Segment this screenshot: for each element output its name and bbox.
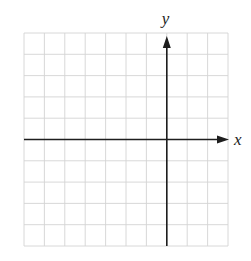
coordinate-plane: x y — [0, 0, 251, 261]
x-axis-arrow-icon — [217, 136, 229, 144]
y-axis-label: y — [160, 9, 170, 28]
y-axis-arrow-icon — [163, 36, 171, 48]
axes — [24, 36, 229, 246]
x-axis-label: x — [233, 130, 242, 149]
